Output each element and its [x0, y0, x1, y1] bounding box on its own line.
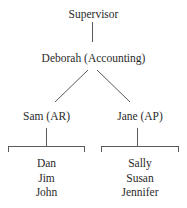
- org-chart: Supervisor Deborah (Accounting) Sam (AR)…: [0, 0, 187, 208]
- leaf-list-jane: Sally Susan Jennifer: [101, 156, 179, 200]
- node-deborah-label: Deborah (Accounting): [42, 52, 146, 64]
- leaf-item: Dan: [8, 156, 85, 171]
- node-jane: Jane (AP): [93, 111, 187, 123]
- leaf-item: Susan: [101, 171, 179, 186]
- leaf-item: Jim: [8, 171, 85, 186]
- connector-manager-to-sam: [55, 70, 88, 102]
- connector-manager-to-jane: [97, 70, 130, 102]
- leaf-item: John: [8, 185, 85, 200]
- leaf-item: Jennifer: [101, 185, 179, 200]
- node-sam-label: Sam (AR): [23, 110, 70, 122]
- node-sam: Sam (AR): [0, 111, 93, 123]
- node-deborah: Deborah (Accounting): [0, 53, 187, 65]
- leaf-list-sam: Dan Jim John: [8, 156, 85, 200]
- node-supervisor-label: Supervisor: [69, 8, 119, 20]
- leaf-item: Sally: [101, 156, 179, 171]
- node-supervisor: Supervisor: [0, 9, 187, 21]
- node-jane-label: Jane (AP): [117, 110, 163, 122]
